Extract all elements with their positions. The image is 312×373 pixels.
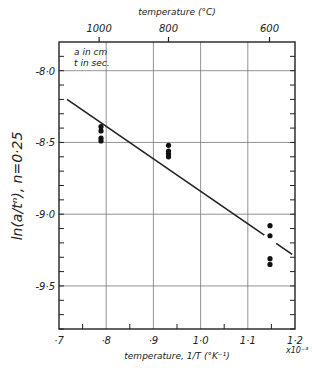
- unit-note-t: t in sec.: [74, 58, 110, 68]
- top-tick-label: 800: [159, 23, 178, 34]
- unit-note-a: a in cm: [74, 47, 107, 57]
- top-axis-label: temperature (°C): [138, 7, 215, 17]
- fit-line: [276, 243, 292, 254]
- data-point: [267, 256, 272, 261]
- y-tick-label: -9·5: [35, 281, 55, 292]
- data-point: [267, 233, 272, 238]
- y-tick-label: -8·5: [35, 137, 55, 148]
- x-tick-label: 1·2: [287, 335, 303, 346]
- y-tick-label: -9·0: [35, 209, 55, 220]
- data-point: [98, 138, 103, 143]
- fit-line: [67, 99, 264, 235]
- data-point: [267, 262, 272, 267]
- x-axis-label: temperature, 1/T (°K⁻¹): [124, 351, 229, 361]
- y-axis-label: ln(a/tⁿ), n=0·25: [9, 132, 25, 241]
- top-tick-label: 600: [260, 23, 279, 34]
- x-tick-label: 1·1: [240, 335, 256, 346]
- top-tick-label: 1000: [86, 23, 111, 34]
- arrhenius-plot: ·7·8·91·01·11·2x10⁻³temperature, 1/T (°K…: [0, 0, 312, 373]
- x-tick-label: ·7: [54, 335, 64, 346]
- y-tick-label: -8·0: [35, 66, 55, 77]
- data-point: [166, 143, 171, 148]
- x-tick-label: ·8: [101, 335, 111, 346]
- data-point: [98, 128, 103, 133]
- x-tick-label: 1·0: [193, 335, 209, 346]
- x-tick-label: ·9: [149, 335, 159, 346]
- x-multiplier: x10⁻³: [285, 346, 308, 355]
- data-point: [267, 223, 272, 228]
- data-point: [166, 154, 171, 159]
